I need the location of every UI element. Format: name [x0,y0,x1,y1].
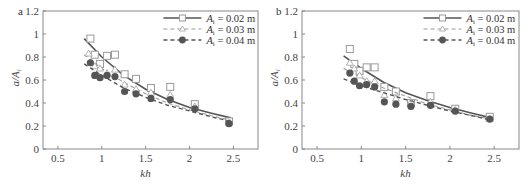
panel-label: a [18,5,23,17]
square-marker [91,51,98,58]
circle-marker [392,101,399,108]
circle-marker [167,96,174,103]
circle-marker [486,116,493,123]
square-marker [371,64,378,71]
y-axis-label: a/Ai [9,69,23,86]
x-tick-label: 0.5 [310,152,324,164]
circle-marker [346,70,353,77]
circle-marker [132,90,139,97]
series-3 [84,59,232,127]
circle-marker [371,83,378,90]
square-marker [121,71,128,78]
y-tick-label: 0.6 [284,74,298,86]
circle-marker [381,98,388,105]
y-tick-label: 0.2 [25,120,39,132]
series-1 [84,35,232,125]
circle-marker [121,88,128,95]
x-tick-label: 2.5 [227,152,241,164]
y-tick-label: 0.4 [284,97,298,109]
x-tick-label: 1.5 [399,152,413,164]
square-marker [133,75,140,82]
y-axis-label: a/Ai [268,69,282,86]
series-3 [344,70,494,123]
fit-line [344,69,492,120]
x-tick-label: 2 [187,152,193,164]
legend-circle-icon [179,37,186,44]
circle-marker [363,81,370,88]
square-marker [111,51,118,58]
x-tick-label: 1 [99,152,105,164]
panel-label: b [276,5,282,17]
circle-marker [87,59,94,66]
circle-marker [427,102,434,109]
figure: 00.20.40.60.811.20.511.522.5akha/AiAi = … [0,0,530,185]
legend-square-icon [179,15,185,21]
y-tick-label: 1 [34,28,40,40]
y-tick-label: 1.2 [284,5,298,17]
legend: Ai = 0.02 mAi = 0.03 mAi = 0.04 m [163,13,255,48]
x-axis-label: kh [140,167,151,179]
circle-marker [225,120,232,127]
circle-marker [96,74,103,81]
circle-marker [111,73,118,80]
y-tick-label: 0.6 [25,74,39,86]
legend: Ai = 0.02 mAi = 0.03 mAi = 0.04 m [424,13,516,48]
x-tick-label: 1.5 [139,152,153,164]
square-marker [346,45,353,52]
circle-marker [452,107,459,114]
y-tick-label: 0.2 [284,120,298,132]
fit-line [84,55,231,121]
y-tick-label: 0.8 [25,51,39,63]
y-tick-label: 0 [34,143,40,155]
y-tick-label: 0 [293,143,299,155]
legend-circle-icon [439,37,446,44]
chart-panel-b: 00.20.40.60.811.20.511.522.5bkha/AiAi = … [268,5,519,180]
square-marker [167,83,174,90]
circle-marker [191,105,198,112]
x-tick-label: 2 [447,152,453,164]
x-tick-label: 1 [359,152,365,164]
y-tick-label: 0.4 [25,97,39,109]
circle-marker [356,82,363,89]
y-tick-label: 1 [293,28,299,40]
legend-square-icon [440,15,446,21]
chart-panel-a: 00.20.40.60.811.20.511.522.5akha/AiAi = … [9,5,258,180]
y-tick-label: 0.8 [284,51,298,63]
circle-marker [407,103,414,110]
square-marker [87,35,94,42]
square-marker [392,88,399,95]
y-tick-label: 1.2 [25,5,39,17]
square-marker [363,64,370,71]
circle-marker [147,95,154,102]
x-tick-label: 2.5 [487,152,501,164]
circle-marker [103,72,110,79]
x-axis-label: kh [400,167,411,179]
square-marker [104,52,111,59]
x-tick-label: 0.5 [51,152,65,164]
